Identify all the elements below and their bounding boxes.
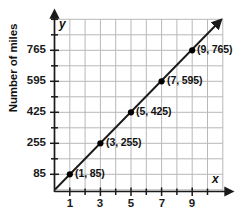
data-point: [189, 47, 195, 53]
graph-figure: Number of miles y x 765 595 425 255 85 1…: [0, 0, 241, 214]
x-tick-label: 7: [150, 197, 174, 209]
data-point: [97, 140, 103, 146]
y-tick-label: 255: [0, 136, 46, 148]
x-tick-label: 1: [58, 197, 82, 209]
data-point: [67, 171, 73, 177]
point-label: (9, 765): [197, 43, 232, 55]
y-tick-label: 765: [0, 43, 46, 55]
x-tick-label: 3: [88, 197, 112, 209]
point-label: (3, 255): [106, 136, 141, 148]
point-label: (1, 85): [75, 167, 105, 179]
data-point: [128, 109, 134, 115]
y-tick-label: 425: [0, 105, 46, 117]
x-tick-label: 5: [119, 197, 143, 209]
x-axis-letter: x: [212, 172, 219, 186]
point-label: (5, 425): [136, 105, 171, 117]
point-label: (7, 595): [167, 74, 202, 86]
x-tick-label: 9: [180, 197, 204, 209]
y-tick-label: 595: [0, 74, 46, 86]
y-axis-letter: y: [59, 17, 66, 31]
y-tick-label: 85: [0, 167, 46, 179]
data-point: [159, 78, 165, 84]
